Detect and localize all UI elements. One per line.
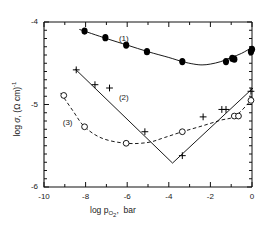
data-point-filled-circle [231, 56, 237, 63]
series-2 [73, 66, 255, 163]
y-axis-title: log σ, (Ω cm)-1 [12, 64, 22, 154]
data-point-open-circle [236, 113, 242, 119]
x-axis-title: log pO2, bar [90, 205, 136, 215]
series-line-3 [61, 93, 251, 144]
curve-label-2: (2) [119, 94, 129, 102]
x-tick-label: -10 [38, 193, 50, 201]
y-tick-label: -4 [18, 18, 38, 26]
data-point-filled-circle [123, 42, 129, 49]
data-point-filled-circle [179, 58, 185, 65]
data-point-plus [106, 85, 113, 92]
data-point-filled-circle [102, 34, 108, 41]
data-point-open-circle [61, 93, 67, 99]
data-point-filled-circle [81, 27, 87, 34]
x-tick-label: 0 [250, 193, 254, 201]
data-point-open-circle [179, 129, 185, 135]
data-point-open-circle [123, 140, 129, 146]
y-tick-label: -6 [18, 183, 38, 191]
curve-label-1: (1) [119, 35, 129, 43]
x-tick-label: -2 [207, 193, 214, 201]
series-3 [61, 93, 254, 147]
data-point-open-circle [248, 97, 254, 103]
x-tick-label: -4 [165, 193, 172, 201]
data-point-plus [248, 88, 255, 95]
data-point-plus [92, 81, 99, 88]
data-point-filled-circle [249, 46, 255, 53]
data-point-filled-circle [144, 48, 150, 55]
data-point-open-circle [82, 124, 88, 130]
data-point-plus [200, 113, 207, 120]
curve-label-3: (3) [63, 119, 73, 127]
data-series-group [61, 27, 255, 163]
data-point-plus [179, 152, 186, 159]
x-tick-label: -6 [124, 193, 131, 201]
series-1 [79, 27, 255, 65]
data-point-filled-circle [223, 58, 229, 65]
data-point-plus [223, 106, 230, 113]
figure-container: -10-8-6-4-20-6-5-4 (1)(2)(3) log pO2, ba… [0, 0, 275, 229]
axes-group [44, 22, 252, 187]
x-tick-label: -8 [82, 193, 89, 201]
series-line-2 [75, 69, 253, 163]
